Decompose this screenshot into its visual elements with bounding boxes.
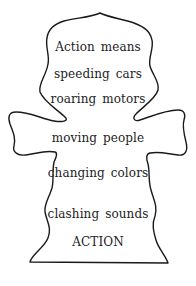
poem-line-7: ACTION <box>0 235 196 249</box>
poem-line-6: clashing sounds <box>0 207 196 221</box>
poem-line-2: speeding cars <box>0 67 196 81</box>
shape-poem: Action means speeding cars roaring motor… <box>0 0 196 286</box>
poem-line-1: Action means <box>0 40 196 54</box>
poem-line-5: changing colors <box>0 166 196 180</box>
poem-line-3: roaring motors <box>0 92 196 106</box>
poem-line-4: moving people <box>0 131 196 145</box>
